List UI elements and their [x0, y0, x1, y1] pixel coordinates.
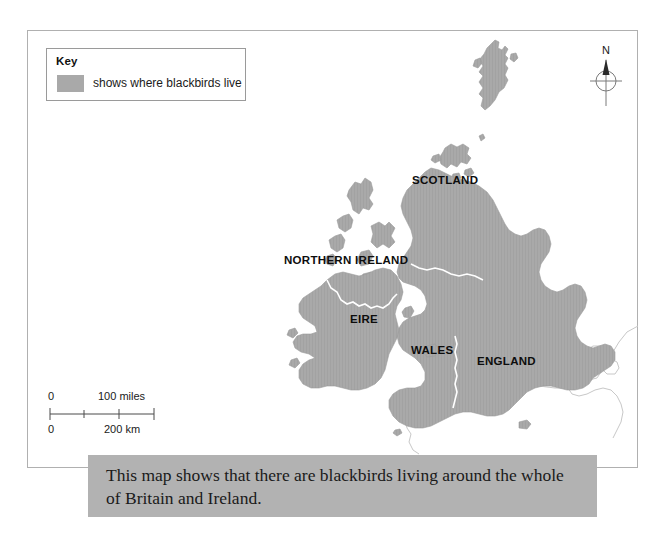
label-northern-ireland: NORTHERN IRELAND — [284, 254, 408, 266]
map-page: Key shows where blackbirds live N 0 100 … — [0, 0, 665, 540]
scale-bar-graphic — [48, 407, 158, 421]
scale-bar: 0 100 miles 0 200 km — [48, 390, 198, 442]
landmass-shaded — [287, 40, 615, 436]
label-eire: EIRE — [350, 313, 378, 325]
key-title: Key — [56, 55, 77, 67]
compass-north-label: N — [586, 44, 626, 56]
label-england: ENGLAND — [477, 355, 536, 367]
map-caption-band: This map shows that there are blackbirds… — [88, 455, 597, 517]
scale-km-end: 200 km — [104, 423, 140, 435]
map-key: Key shows where blackbirds live — [46, 48, 246, 101]
map-caption-text: This map shows that there are blackbirds… — [106, 464, 579, 510]
scale-km-start: 0 — [48, 423, 54, 435]
key-label: shows where blackbirds live — [93, 76, 242, 90]
label-scotland: SCOTLAND — [412, 174, 478, 186]
label-wales: WALES — [411, 344, 453, 356]
compass-rose: N — [586, 44, 626, 106]
scale-miles-end: 100 miles — [98, 390, 145, 402]
scale-miles-start: 0 — [48, 390, 54, 402]
key-swatch-blackbirds — [57, 75, 84, 92]
